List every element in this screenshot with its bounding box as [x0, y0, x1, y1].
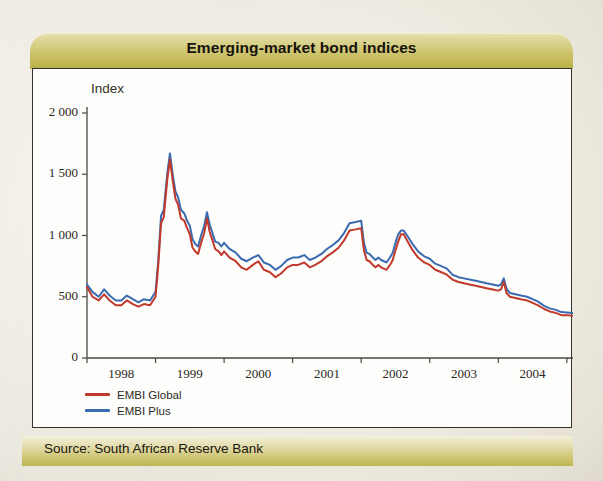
legend-item: EMBI Global: [85, 387, 182, 402]
x-tick-label: 2004: [511, 366, 555, 382]
y-tick-label: 500: [59, 288, 79, 304]
x-tick-label: 1998: [99, 366, 143, 382]
y-tick-label: 2 000: [49, 104, 78, 120]
source-text: Source: South African Reserve Bank: [44, 441, 263, 456]
x-tick-label: 2001: [305, 366, 349, 382]
y-tick-label: 1 000: [49, 227, 78, 243]
legend-color-swatch: [85, 409, 110, 412]
plot-area: Index 05001 0001 5002 000199819992000200…: [33, 69, 573, 429]
legend-color-swatch: [85, 393, 110, 396]
legend-item: EMBI Plus: [85, 403, 182, 418]
x-tick-label: 1999: [168, 366, 212, 382]
y-axis-title: Index: [91, 81, 124, 96]
legend-label: EMBI Plus: [117, 405, 171, 417]
chart-legend: EMBI GlobalEMBI Plus: [85, 387, 182, 419]
legend-label: EMBI Global: [117, 389, 182, 401]
source-bar: Source: South African Reserve Bank: [22, 436, 573, 466]
y-tick-label: 1 500: [49, 165, 78, 181]
x-tick-label: 2000: [236, 366, 280, 382]
x-tick-label: 2003: [442, 366, 486, 382]
chart-title-bar: Emerging-market bond indices: [30, 33, 573, 69]
y-tick-label: 0: [72, 349, 79, 365]
chart-panel: Index 05001 0001 5002 000199819992000200…: [32, 68, 572, 428]
x-tick-label: 2002: [373, 366, 417, 382]
chart-title: Emerging-market bond indices: [30, 39, 573, 57]
